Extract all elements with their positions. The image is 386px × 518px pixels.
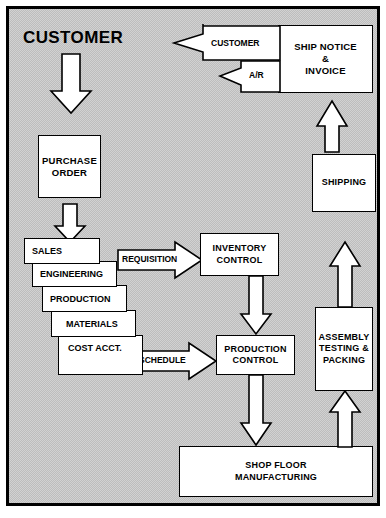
node-production-control: PRODUCTION CONTROL	[216, 335, 295, 375]
dept-label-production: PRODUCTION	[50, 294, 111, 304]
dept-box-cost-acct: COST ACCT.	[58, 335, 143, 375]
node-shop-floor-line1: SHOP FLOOR	[235, 460, 317, 471]
arrow-shipping-to-ship-notice	[316, 101, 348, 153]
arrow-production-control-to-shop-floor	[240, 375, 272, 446]
node-ship-notice-line2: &	[294, 53, 357, 65]
arrow-label-ar: A/R	[249, 70, 264, 80]
node-ship-notice-line3: INVOICE	[294, 65, 357, 77]
diagram-frame: CUSTOMER PURCHASE ORDER SALES ENGINEERIN…	[6, 6, 380, 506]
arrow-customer-to-purchase-order	[50, 53, 92, 115]
node-inventory-control-line2: CONTROL	[213, 255, 267, 266]
dept-box-production: PRODUCTION	[42, 285, 127, 312]
node-shop-floor: SHOP FLOOR MANUFACTURING	[179, 446, 373, 497]
node-purchase-order: PURCHASE ORDER	[38, 135, 101, 198]
dept-box-materials: MATERIALS	[51, 310, 136, 337]
node-inventory-control-line1: INVENTORY	[213, 243, 267, 254]
node-shipping-line1: SHIPPING	[322, 177, 367, 188]
node-ship-notice-line1: SHIP NOTICE	[294, 41, 357, 53]
dept-label-engineering: ENGINEERING	[40, 269, 103, 279]
node-production-control-line2: CONTROL	[224, 355, 287, 366]
diagram-canvas: CUSTOMER PURCHASE ORDER SALES ENGINEERIN…	[0, 0, 386, 518]
node-purchase-order-line1: PURCHASE	[42, 155, 97, 167]
node-shop-floor-line2: MANUFACTURING	[235, 472, 317, 483]
arrow-label-customer-return: CUSTOMER	[211, 38, 260, 48]
node-assembly-line1: ASSEMBLY	[319, 332, 370, 343]
node-production-control-line1: PRODUCTION	[224, 344, 287, 355]
arrow-inventory-to-production-control	[240, 276, 272, 335]
arrow-label-schedule: SCHEDULE	[139, 355, 186, 365]
node-ship-notice: SHIP NOTICE & INVOICE	[278, 25, 373, 93]
node-assembly-line2: TESTING &	[319, 343, 370, 354]
arrow-shop-floor-to-assembly	[329, 391, 361, 447]
dept-box-engineering: ENGINEERING	[32, 261, 117, 287]
node-shipping: SHIPPING	[312, 154, 376, 212]
node-purchase-order-line2: ORDER	[42, 167, 97, 179]
diagram-title: CUSTOMER	[23, 28, 123, 48]
node-assembly-line3: PACKING	[319, 355, 370, 366]
arrow-label-requisition: REQUISITION	[122, 254, 177, 264]
arrow-purchase-order-to-sales	[54, 203, 86, 243]
node-inventory-control: INVENTORY CONTROL	[200, 233, 279, 276]
dept-label-cost-acct: COST ACCT.	[68, 343, 122, 353]
arrow-assembly-to-shipping	[329, 242, 361, 308]
node-assembly: ASSEMBLY TESTING & PACKING	[315, 307, 373, 391]
dept-label-materials: MATERIALS	[66, 319, 118, 329]
dept-label-sales: SALES	[32, 246, 62, 256]
dept-box-sales: SALES	[24, 238, 100, 264]
